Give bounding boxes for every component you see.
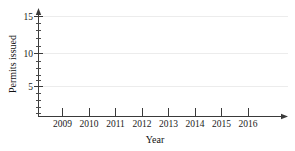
y-tick-label-5: 5 bbox=[28, 82, 33, 92]
chart-plot-area: 15 10 5 2009 2010 2011 2012 2013 2014 20… bbox=[0, 0, 295, 151]
x-tick-label-2013: 2013 bbox=[159, 119, 178, 129]
x-axis: 2009 2010 2011 2012 2013 2014 2015 2016 bbox=[39, 108, 289, 129]
x-tick-label-2010: 2010 bbox=[80, 119, 99, 129]
y-tick-label-15: 15 bbox=[24, 12, 34, 22]
y-axis: 15 10 5 bbox=[24, 8, 44, 117]
x-tick-label-2015: 2015 bbox=[212, 119, 231, 129]
x-axis-arrow-icon bbox=[281, 114, 288, 119]
y-tick-label-10: 10 bbox=[24, 49, 34, 59]
x-tick-label-2014: 2014 bbox=[186, 119, 205, 129]
y-axis-arrow-icon bbox=[36, 8, 41, 15]
x-tick-label-2011: 2011 bbox=[106, 119, 125, 129]
chart-container: 15 10 5 2009 2010 2011 2012 2013 2014 20… bbox=[0, 0, 295, 151]
x-tick-label-2012: 2012 bbox=[133, 119, 152, 129]
gridlines bbox=[39, 17, 289, 87]
x-tick-label-2016: 2016 bbox=[239, 119, 258, 129]
x-tick-label-2009: 2009 bbox=[53, 119, 72, 129]
y-axis-title: Permits issued bbox=[7, 35, 18, 93]
x-axis-title: Year bbox=[146, 134, 165, 145]
